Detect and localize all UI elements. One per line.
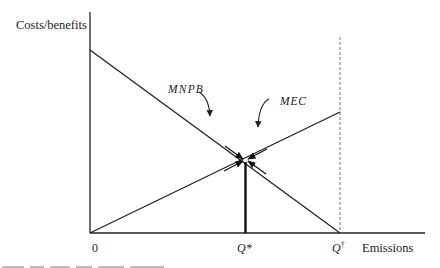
- mnpb-label: MNPB: [167, 83, 204, 95]
- mec-arrow-icon: [258, 99, 269, 127]
- mnpb-arrow-icon: [199, 92, 210, 116]
- mec-label: MEC: [279, 95, 307, 107]
- chart-canvas: Costs/benefits MNPB MEC 0 Q* Q† Emission…: [0, 0, 440, 268]
- mec-curve: [90, 112, 340, 233]
- y-axis-label: Costs/benefits: [16, 18, 87, 32]
- origin-label: 0: [92, 241, 98, 255]
- q-dagger-label: Q†: [332, 240, 345, 255]
- mnpb-curve: [90, 50, 340, 233]
- x-axis-label: Emissions: [362, 241, 414, 255]
- q-star-label: Q*: [237, 241, 252, 255]
